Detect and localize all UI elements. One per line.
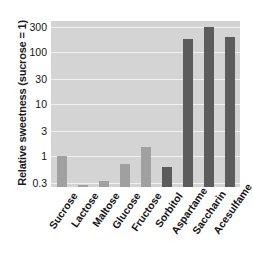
y-tick-label: 3: [8, 126, 47, 137]
y-tick-label: 30: [8, 74, 47, 85]
x-axis-tick-labels: SucroseLactoseMaltoseGlucoseFructoseSorb…: [51, 188, 240, 265]
y-tick-label: 300: [8, 22, 47, 33]
y-tick-label: 10: [8, 99, 47, 110]
y-tick-label: 100: [8, 47, 47, 58]
y-axis-tick-labels: 3001003010310.3: [0, 21, 253, 187]
y-tick-label: 0.3: [8, 178, 47, 189]
sweetness-bar-chart: Relative sweetness (sucrose = 1) 3001003…: [0, 0, 253, 265]
y-tick-label: 1: [8, 151, 47, 162]
